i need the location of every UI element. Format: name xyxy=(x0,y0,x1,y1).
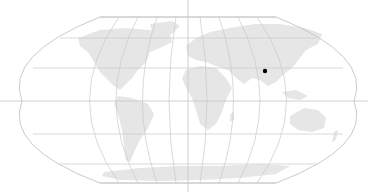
australia xyxy=(290,108,326,132)
new-zealand xyxy=(332,130,338,142)
location-marker-icon[interactable] xyxy=(263,69,267,73)
north-america xyxy=(78,28,172,90)
world-map[interactable] xyxy=(0,0,368,192)
crosshair xyxy=(0,0,368,192)
